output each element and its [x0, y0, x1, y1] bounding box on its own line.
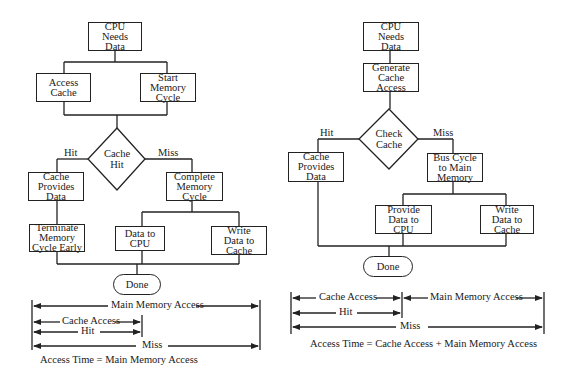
write-data-to-cache-node: Write Data to Cache: [480, 205, 534, 234]
start-memory-cycle-node: Start Memory Cycle: [140, 73, 196, 102]
cache-provides-data-node: Cache Provides Data: [288, 152, 344, 182]
miss-branch-label: Miss: [431, 127, 455, 138]
terminate-memory-cycle-node: Terminate Memory Cycle Early: [29, 224, 85, 252]
miss-branch-label: Miss: [156, 147, 180, 158]
timing-miss-label: Miss: [142, 339, 162, 350]
node-label: Bus Cycle to Main Memory: [431, 153, 479, 183]
access-cache-node: Access Cache: [36, 73, 91, 102]
timing-hit-label: Hit: [81, 325, 94, 336]
node-label: Done: [126, 279, 149, 290]
node-label: Cache Provides Data: [33, 172, 79, 202]
timing-hit-label: Hit: [339, 306, 352, 317]
node-label: Terminate Memory Cycle Early: [31, 223, 83, 253]
timing-main-memory-access-label: Main Memory Access: [430, 291, 523, 302]
data-to-cpu-node: Data to CPU: [115, 226, 165, 251]
cpu-needs-data-node: CPU Needs Data: [363, 22, 419, 51]
timing-cache-access-label: Cache Access: [319, 291, 377, 302]
write-data-to-cache-node: Write Data to Cache: [211, 226, 267, 255]
node-label: CPU Needs Data: [98, 22, 132, 52]
node-label: CPU Needs Data: [374, 22, 408, 52]
timing-miss-label: Miss: [400, 320, 420, 331]
check-cache-decision: Check Cache: [367, 128, 411, 150]
done-terminal: Done: [363, 256, 413, 277]
complete-memory-cycle-node: Complete Memory Cycle: [166, 172, 223, 201]
node-label: Data to CPU: [120, 229, 160, 249]
access-time-caption: Access Time = Cache Access + Main Memory…: [310, 338, 537, 349]
node-label: Generate Cache Access: [368, 63, 414, 93]
provide-data-to-cpu-node: Provide Data to CPU: [375, 205, 432, 234]
node-label: Write Data to Cache: [218, 226, 260, 256]
access-time-caption: Access Time = Main Memory Access: [40, 354, 198, 365]
node-label: Complete Memory Cycle: [170, 172, 220, 202]
decision-label: Check Cache: [372, 128, 406, 150]
decision-label: Cache Hit: [101, 148, 133, 170]
hit-branch-label: Hit: [62, 147, 79, 158]
node-label: Cache Provides Data: [293, 152, 339, 182]
done-terminal: Done: [113, 274, 161, 295]
cache-hit-decision: Cache Hit: [95, 148, 139, 170]
cpu-needs-data-node: CPU Needs Data: [88, 22, 142, 51]
bus-cycle-to-main-memory-node: Bus Cycle to Main Memory: [427, 153, 483, 182]
node-label: Provide Data to CPU: [383, 205, 425, 235]
hit-branch-label: Hit: [318, 127, 335, 138]
node-label: Access Cache: [44, 78, 84, 98]
cache-provides-data-node: Cache Provides Data: [28, 172, 84, 201]
timing-main-memory-access-label: Main Memory Access: [111, 299, 204, 310]
node-label: Done: [377, 261, 400, 272]
node-label: Start Memory Cycle: [148, 73, 188, 103]
node-label: Write Data to Cache: [486, 205, 528, 235]
generate-cache-access-node: Generate Cache Access: [363, 63, 419, 92]
